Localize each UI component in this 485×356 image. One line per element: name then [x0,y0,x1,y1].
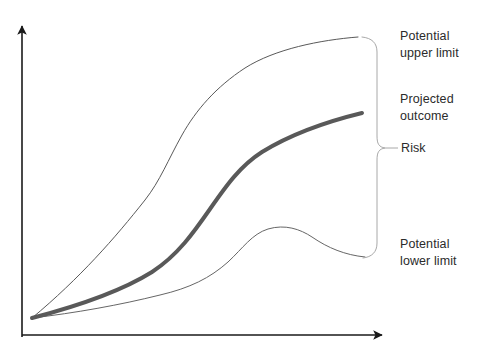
annotation-projected-outcome-line1: Projected [400,91,454,108]
annotation-risk: Risk [401,140,426,157]
annotation-potential-lower-limit: Potential lower limit [400,236,457,270]
annotation-potential-upper-limit-line2: upper limit [400,45,459,62]
annotation-projected-outcome: Projected outcome [400,91,454,125]
projected-outcome-curve [32,113,362,318]
annotation-potential-lower-limit-line1: Potential [400,236,457,253]
annotation-potential-upper-limit: Potential upper limit [400,28,459,62]
annotation-projected-outcome-line2: outcome [400,108,454,125]
annotation-potential-lower-limit-line2: lower limit [400,253,457,270]
potential-upper-limit-curve [32,37,358,318]
annotation-potential-upper-limit-line1: Potential [400,28,459,45]
risk-projection-diagram: Potential upper limit Projected outcome … [0,0,485,356]
risk-range-brace [362,37,385,258]
